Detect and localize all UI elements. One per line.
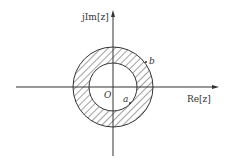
point-b [145,61,147,63]
inner-radius-label: a [123,94,128,104]
annulus-diagram: jIm[z] Re[z] O a b [0,0,230,164]
hatched-region [0,0,230,164]
y-axis-label: jIm[z] [81,12,109,22]
x-axis-label: Re[z] [187,94,211,104]
point-a [129,102,131,104]
origin-label: O [104,90,112,100]
outer-radius-label: b [149,56,155,66]
